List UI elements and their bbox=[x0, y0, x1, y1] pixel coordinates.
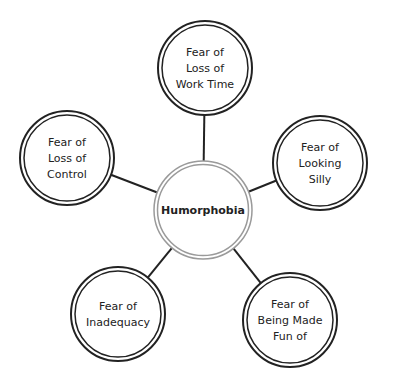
center-label: Humorphobia bbox=[161, 204, 245, 217]
center-node: Humorphobia bbox=[154, 161, 252, 259]
node-outer-ring bbox=[71, 267, 165, 361]
node-label-line: Work Time bbox=[176, 78, 235, 91]
node-label-line: Being Made bbox=[258, 314, 323, 327]
connector-looking-silly bbox=[248, 181, 276, 192]
connector-work-time bbox=[204, 115, 205, 161]
node-inadequacy: Fear ofInadequacy bbox=[71, 267, 165, 361]
node-work-time: Fear ofLoss ofWork Time bbox=[158, 21, 252, 115]
connector-made-fun-of bbox=[233, 248, 260, 283]
node-label-line: Control bbox=[47, 168, 87, 181]
node-label-line: Fun of bbox=[273, 330, 308, 343]
connector-inadequacy bbox=[148, 248, 172, 278]
connector-loss-of-control bbox=[111, 175, 157, 193]
node-label-line: Fear of bbox=[271, 298, 310, 311]
node-label-line: Looking bbox=[299, 157, 342, 170]
node-label-line: Loss of bbox=[48, 152, 87, 165]
node-label-line: Fear of bbox=[99, 300, 138, 313]
mind-map-diagram: Humorphobia Fear ofLoss ofWork TimeFear … bbox=[0, 0, 404, 381]
node-made-fun-of: Fear ofBeing MadeFun of bbox=[243, 273, 337, 367]
node-looking-silly: Fear ofLookingSilly bbox=[273, 116, 367, 210]
node-label-line: Fear of bbox=[301, 141, 340, 154]
node-label-line: Fear of bbox=[48, 136, 87, 149]
node-label-line: Fear of bbox=[186, 46, 225, 59]
node-loss-of-control: Fear ofLoss ofControl bbox=[20, 111, 114, 205]
node-label-line: Silly bbox=[309, 173, 332, 186]
node-label-line: Loss of bbox=[186, 62, 225, 75]
node-label-line: Inadequacy bbox=[86, 316, 150, 329]
